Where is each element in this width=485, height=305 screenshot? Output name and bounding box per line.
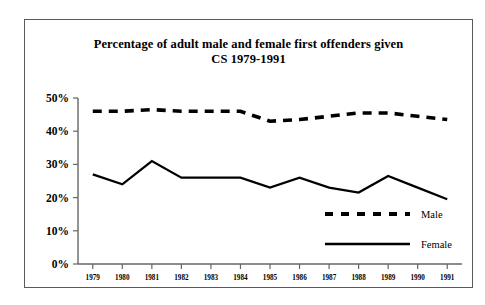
x-tick-label: 1979: [86, 274, 101, 282]
x-tick-label: 1980: [115, 274, 130, 282]
x-tick-label: 1983: [204, 274, 219, 282]
y-tick-group: 0%10%20%30%40%50%: [46, 92, 78, 270]
y-axis: 0%10%20%30%40%50%: [46, 92, 78, 270]
x-tick-label: 1989: [381, 274, 396, 282]
plot-area: 0%10%20%30%40%50% 1979198019811982198319…: [25, 20, 474, 289]
y-tick-label: 40%: [46, 125, 69, 137]
x-tick-group: 1979198019811982198319841985198619871988…: [86, 264, 455, 282]
x-tick-label: 1985: [263, 274, 278, 282]
x-tick-label: 1990: [411, 274, 426, 282]
x-tick-label: 1987: [322, 274, 337, 282]
x-tick-label: 1984: [233, 274, 248, 282]
series-line-male: [93, 110, 447, 122]
x-tick-label: 1988: [351, 274, 366, 282]
x-tick-label: 1981: [145, 274, 160, 282]
chart-frame: Percentage of adult male and female firs…: [24, 19, 473, 288]
y-tick-label: 50%: [46, 92, 69, 104]
series-line-female: [93, 161, 447, 199]
y-tick-label: 30%: [46, 158, 69, 170]
y-tick-label: 0%: [52, 258, 69, 270]
x-tick-label: 1982: [174, 274, 189, 282]
y-tick-label: 10%: [46, 225, 69, 237]
x-tick-label: 1991: [440, 274, 455, 282]
legend: Male Female: [325, 209, 452, 250]
series-group: [93, 110, 447, 200]
x-tick-label: 1986: [292, 274, 307, 282]
x-axis: 1979198019811982198319841985198619871988…: [78, 264, 462, 282]
line-chart-svg: 0%10%20%30%40%50% 1979198019811982198319…: [25, 20, 474, 289]
legend-label-female: Female: [421, 239, 452, 250]
y-tick-label: 20%: [46, 192, 69, 204]
legend-label-male: Male: [421, 209, 443, 220]
